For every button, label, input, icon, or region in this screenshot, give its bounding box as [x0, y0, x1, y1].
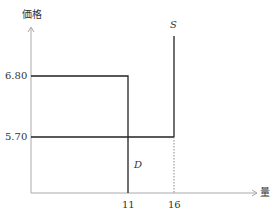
demand-label: D — [134, 160, 142, 170]
y-tick-5-70: 5.70 — [5, 132, 27, 142]
supply-label: S — [170, 20, 177, 30]
y-tick-6-80: 6.80 — [5, 71, 27, 81]
demand-curve — [31, 76, 128, 193]
x-tick-16: 16 — [168, 200, 181, 210]
x-tick-11: 11 — [122, 200, 135, 210]
chart-canvas — [0, 0, 276, 218]
x-axis-label: 量 — [260, 188, 270, 198]
y-axis-label: 価格 — [22, 10, 42, 20]
